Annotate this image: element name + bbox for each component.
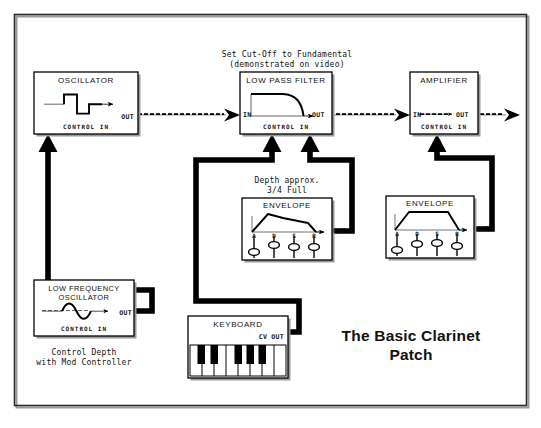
envelope-amp-stage-a: A bbox=[391, 230, 403, 237]
oscillator-out-label: OUT bbox=[100, 113, 134, 121]
oscillator-title: OSCILLATOR bbox=[34, 76, 138, 85]
lfo-note-line1: Control Depth bbox=[14, 348, 154, 358]
lfo-control-in-label: CONTROL IN bbox=[34, 325, 134, 332]
amplifier-title: AMPLIFIER bbox=[410, 76, 478, 85]
amplifier-control-in-label: CONTROL IN bbox=[410, 123, 478, 130]
depth-note-line2: 3/4 Full bbox=[222, 186, 352, 196]
amplifier-in-label: IN bbox=[413, 111, 429, 119]
connection-osc-to-filter bbox=[140, 108, 240, 121]
connection-amp-to-output bbox=[478, 108, 520, 121]
low-pass-filter-title: LOW PASS FILTER bbox=[240, 76, 332, 85]
connection-filter-to-amp bbox=[332, 108, 410, 121]
envelope-filter-stage-s: S bbox=[288, 232, 300, 239]
keyboard-title: KEYBOARD bbox=[188, 320, 288, 329]
envelope-amp-stage-s: S bbox=[431, 230, 443, 237]
lfo-out-label: OUT bbox=[104, 309, 132, 317]
envelope-filter-out-label: OUT bbox=[333, 227, 355, 235]
amplifier-out-label: OUT bbox=[456, 111, 478, 119]
envelope-filter-stage-d: D bbox=[268, 232, 280, 239]
page-title-line1: The Basic Clarinet bbox=[316, 326, 506, 345]
envelope-amp-stage-d: D bbox=[411, 230, 423, 237]
envelope-filter-title: ENVELOPE bbox=[242, 201, 332, 210]
lfo-note-line2: with Mod Controller bbox=[14, 358, 154, 368]
oscillator-control-in-label: CONTROL IN bbox=[34, 123, 138, 130]
diagram-canvas: OSCILLATOR OUT CONTROL IN LOW PASS FILTE… bbox=[0, 0, 541, 428]
envelope-filter-stage-r: R bbox=[308, 232, 320, 239]
envelope-amp-out-label: OUT bbox=[476, 225, 498, 233]
depth-note-line1: Depth approx. bbox=[222, 176, 352, 186]
filter-note-line2: (demonstrated on video) bbox=[212, 60, 362, 70]
low-pass-filter-in-label: IN bbox=[243, 111, 259, 119]
lfo-title-line2: OSCILLATOR bbox=[34, 293, 134, 302]
envelope-amp-title: ENVELOPE bbox=[386, 199, 474, 208]
piano-keys[interactable] bbox=[190, 345, 286, 376]
lfo-title-line1: LOW FREQUENCY bbox=[34, 284, 134, 293]
filter-note-line1: Set Cut-Off to Fundamental bbox=[212, 50, 362, 60]
envelope-amp-stage-r: R bbox=[451, 230, 463, 237]
low-pass-filter-control-in-label: CONTROL IN bbox=[240, 123, 332, 130]
page-title-line2: Patch bbox=[316, 345, 506, 364]
keyboard-cv-out-label: CV OUT bbox=[236, 333, 284, 341]
envelope-filter-stage-a: A bbox=[248, 232, 260, 239]
low-pass-filter-out-label: OUT bbox=[312, 111, 332, 119]
